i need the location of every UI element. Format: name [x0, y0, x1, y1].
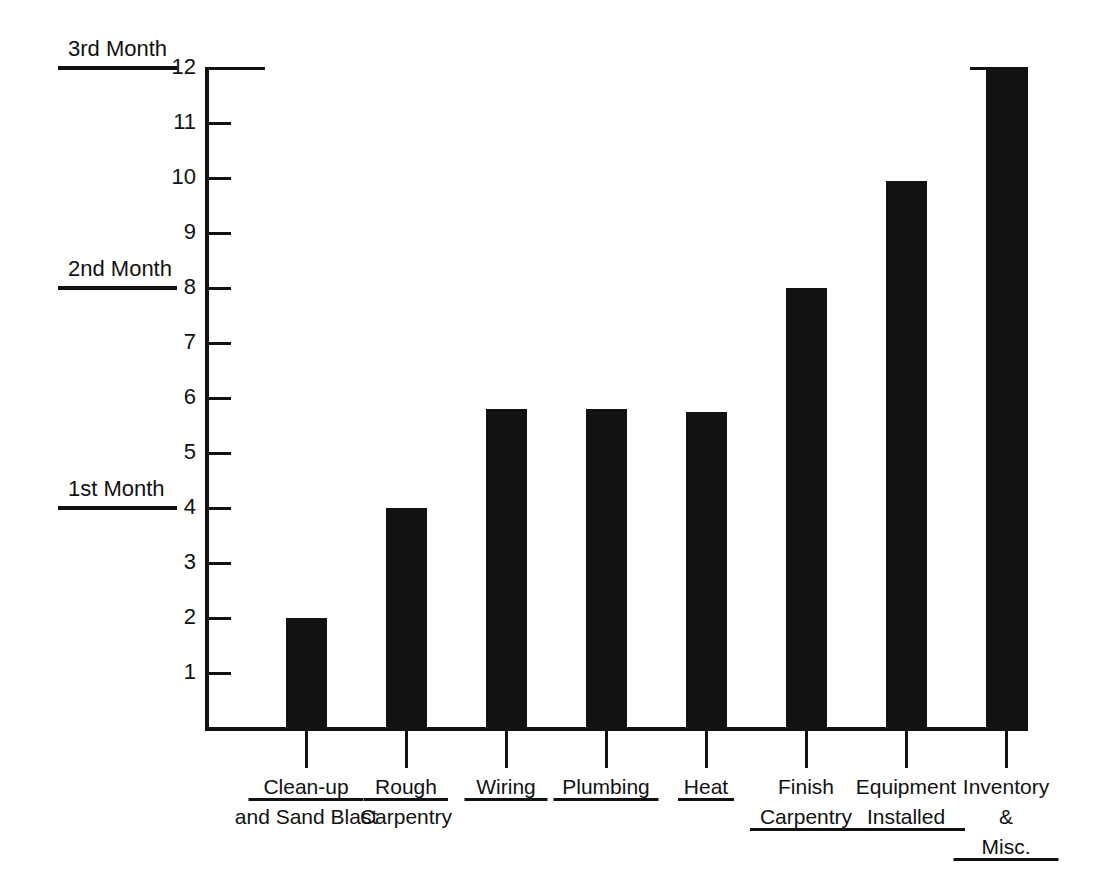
bar-clean-up-and-sand-blast [286, 618, 327, 728]
y-axis-tick-label: 3 [150, 551, 196, 573]
x-axis-label-line: Misc. [916, 832, 1093, 862]
y-axis-tick [209, 177, 231, 180]
y-axis-tick-label: 9 [150, 221, 196, 243]
y-axis-tick-label: 7 [150, 331, 196, 353]
x-axis-label-line: Carpentry [316, 802, 496, 832]
x-axis-tick [805, 731, 808, 768]
x-axis-tick [1005, 731, 1008, 768]
y-axis-tick-label: 1 [150, 661, 196, 683]
x-axis-tick [705, 731, 708, 768]
y-axis-tick [209, 562, 231, 565]
x-axis-tick [605, 731, 608, 768]
y-axis-tick [209, 122, 231, 125]
y-axis-tick [209, 452, 231, 455]
month-annotation-label: 2nd Month [68, 258, 172, 280]
bar-chart: 121110987654321 3rd Month2nd Month1st Mo… [0, 0, 1093, 889]
x-axis-label-inventory-and-misc: Inventory&Misc. [916, 772, 1093, 862]
bar-inventory-and-misc [986, 68, 1027, 728]
bar-plumbing [586, 409, 627, 728]
month-annotation-label: 1st Month [68, 478, 165, 500]
x-axis-tick [405, 731, 408, 768]
y-axis-tick [209, 672, 231, 675]
x-axis-label-line: Inventory [916, 772, 1093, 802]
plot-top-border-left [205, 67, 265, 70]
y-axis-tick [209, 507, 231, 510]
month-annotation-rule [58, 66, 177, 70]
month-annotation-rule [58, 506, 177, 510]
x-axis-tick [905, 731, 908, 768]
bar-finish-carpentry [786, 288, 827, 728]
bar-heat [686, 412, 727, 728]
y-axis-tick-label: 5 [150, 441, 196, 463]
y-axis-tick [209, 232, 231, 235]
bar-equipment-installed [886, 181, 927, 728]
y-axis-tick-label: 2 [150, 606, 196, 628]
y-axis-tick-label: 6 [150, 386, 196, 408]
y-axis-tick [209, 397, 231, 400]
month-annotation-label: 3rd Month [68, 38, 167, 60]
y-axis-tick-label: 10 [150, 166, 196, 188]
y-axis-tick [209, 342, 231, 345]
y-axis-tick [209, 617, 231, 620]
month-annotation-rule [58, 286, 177, 290]
x-axis-label-line: & [916, 802, 1093, 832]
x-axis-tick [505, 731, 508, 768]
y-axis-tick [209, 287, 231, 290]
bar-wiring [486, 409, 527, 728]
x-axis-tick [305, 731, 308, 768]
bar-rough-carpentry [386, 508, 427, 728]
y-axis-tick-label: 11 [150, 111, 196, 133]
